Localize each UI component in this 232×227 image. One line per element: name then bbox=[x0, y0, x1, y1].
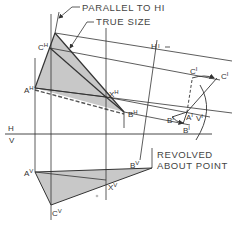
fold-h1-label: H bbox=[151, 42, 157, 51]
triangle-vertical-view bbox=[35, 168, 152, 205]
about-point-label: ABOUT POINT bbox=[157, 160, 228, 171]
label-x-v: XV bbox=[108, 182, 117, 192]
label-c-v: CV bbox=[52, 208, 62, 218]
h1-fold-line bbox=[140, 40, 157, 160]
fold-h-label: H bbox=[8, 124, 14, 133]
label-c-1: CI bbox=[190, 66, 198, 76]
speck bbox=[96, 195, 99, 198]
label-c-1-revolved: CI bbox=[221, 71, 229, 81]
label-b-h: BH bbox=[128, 109, 138, 119]
revolved-label: REVOLVED bbox=[157, 149, 213, 160]
label-a-v: AV bbox=[24, 168, 33, 178]
annotation-leaders bbox=[59, 7, 94, 48]
descriptive-geometry-figure: PARALLEL TO HI TRUE SIZE REVOLVED ABOUT … bbox=[0, 0, 232, 227]
label-a-1: AI bbox=[186, 112, 193, 122]
fold-h1-sub: I bbox=[158, 43, 160, 49]
fold-v-label: V bbox=[9, 136, 15, 145]
label-b-1: BI bbox=[167, 115, 174, 125]
parallel-leader-line bbox=[55, 12, 59, 33]
true-size-label: TRUE SIZE bbox=[96, 16, 151, 27]
label-x-h: XH bbox=[109, 89, 119, 99]
label-v-1: VI bbox=[196, 113, 203, 123]
parallel-to-h1-label: PARALLEL TO HI bbox=[82, 2, 165, 13]
label-a-h: AH bbox=[24, 85, 34, 95]
label-b-1-revolved: BI bbox=[183, 125, 190, 135]
label-c-h: CH bbox=[38, 42, 48, 52]
